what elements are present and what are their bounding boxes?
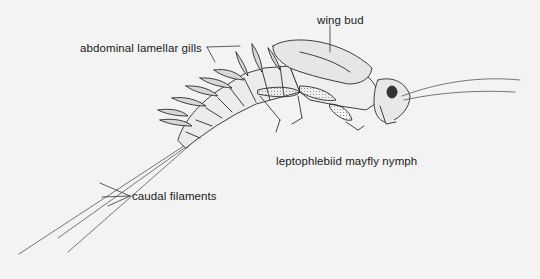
figure-title: leptophlebiid mayfly nymph xyxy=(276,155,417,167)
wing-bud-label: wing bud xyxy=(317,14,364,26)
abdominal-gills-label: abdominal lamellar gills xyxy=(80,42,202,54)
head xyxy=(374,79,410,124)
antennae xyxy=(402,79,520,100)
caudal-filaments-label: caudal filaments xyxy=(132,190,217,202)
